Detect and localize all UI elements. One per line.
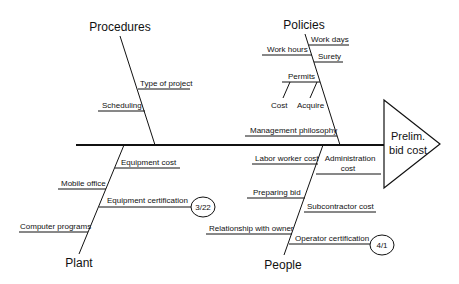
cause-subcontractor-cost: Subcontractor cost [307,202,374,211]
cause-scheduling: Scheduling [102,101,142,110]
cause-administration-cost-line2: cost [341,164,356,173]
cause-equipment-cost: Equipment cost [121,158,177,167]
badge-equipment-certification: 3/22 [195,203,211,212]
cause-permits: Permits [288,72,315,81]
cause-administration-cost-line1: Administration [325,154,376,163]
cause-management-philosophy: Management philosophy [250,126,337,135]
diagram-svg: Prelim. bid cost Procedures Type of proj… [0,0,459,284]
effect-label-line1: Prelim. [391,130,425,142]
cause-mobile-office: Mobile office [61,179,106,188]
procedures-label: Procedures [89,20,150,34]
cause-work-hours: Work hours [267,45,308,54]
cause-labor-worker-cost: Labor worker cost [255,154,319,163]
effect-label-line2: bid cost [389,144,427,156]
cause-computer-programs: Computer programs [20,222,91,231]
sub-cause-cost: Cost [271,101,288,110]
cause-work-days: Work days [311,35,349,44]
sub-cause-line [310,82,317,98]
badge-operator-certification: 4/1 [376,241,388,250]
sub-cause-line [283,82,290,98]
policies-label: Policies [283,18,324,32]
sub-cause-acquire: Acquire [297,101,325,110]
cause-preparing-bid: Preparing bid [253,188,301,197]
people-label: People [264,258,302,272]
cause-surety: Surety [318,52,341,61]
cause-operator-certification: Operator certification [295,234,369,243]
plant-label: Plant [65,256,93,270]
procedures-bone [120,36,155,145]
cause-type-of-project: Type of project [140,79,193,88]
fishbone-diagram: Prelim. bid cost Procedures Type of proj… [0,0,459,284]
cause-relationship-with-owner: Relationship with owner [209,224,294,233]
cause-equipment-certification: Equipment certification [107,196,188,205]
